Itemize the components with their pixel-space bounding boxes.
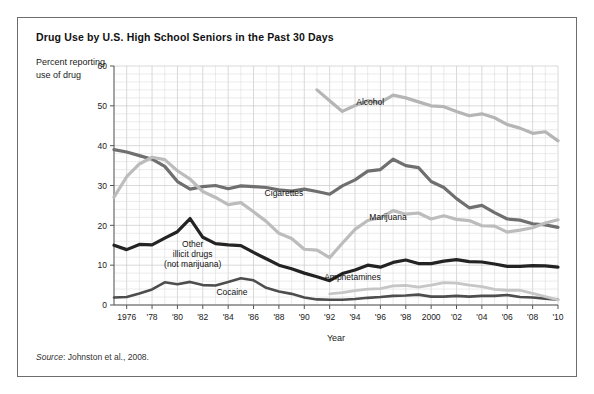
- svg-text:Year: Year: [327, 333, 345, 343]
- svg-text:'10: '10: [552, 312, 563, 322]
- svg-text:'88: '88: [273, 312, 284, 322]
- svg-text:'02: '02: [451, 312, 462, 322]
- svg-text:'90: '90: [299, 312, 310, 322]
- x-axis-ticks: 1976'78'80'82'84'86'88'90'92'94'96'98200…: [117, 305, 564, 322]
- chart-plot-area: 0102030405060 1976'78'80'82'84'86'88'90'…: [18, 18, 576, 358]
- svg-text:50: 50: [98, 101, 108, 111]
- svg-text:'80: '80: [172, 312, 183, 322]
- svg-text:60: 60: [98, 61, 108, 71]
- svg-text:'06: '06: [502, 312, 513, 322]
- svg-text:'98: '98: [400, 312, 411, 322]
- figure-frame: Drug Use by U.S. High School Seniors in …: [17, 17, 577, 377]
- svg-text:'94: '94: [349, 312, 360, 322]
- svg-text:Marijuana: Marijuana: [369, 212, 407, 222]
- y-axis-ticks: 0102030405060: [98, 61, 114, 310]
- svg-text:Amphetamines: Amphetamines: [324, 272, 381, 282]
- gridlines-major: [114, 66, 558, 305]
- x-axis-title: Year: [327, 333, 345, 343]
- svg-text:illicit drugs: illicit drugs: [173, 249, 213, 259]
- svg-text:'78: '78: [147, 312, 158, 322]
- svg-text:40: 40: [98, 141, 108, 151]
- svg-text:'96: '96: [375, 312, 386, 322]
- svg-text:Cigarettes: Cigarettes: [265, 188, 304, 198]
- svg-text:Other: Other: [182, 239, 203, 249]
- svg-text:2000: 2000: [422, 312, 441, 322]
- svg-text:'86: '86: [248, 312, 259, 322]
- svg-text:'04: '04: [476, 312, 487, 322]
- svg-text:20: 20: [98, 221, 108, 231]
- svg-text:(not marijuana): (not marijuana): [164, 259, 221, 269]
- svg-text:30: 30: [98, 181, 108, 191]
- line-chart: 0102030405060 1976'78'80'82'84'86'88'90'…: [18, 18, 576, 358]
- svg-text:10: 10: [98, 260, 108, 270]
- svg-text:'08: '08: [527, 312, 538, 322]
- svg-text:'84: '84: [223, 312, 234, 322]
- svg-text:1976: 1976: [117, 312, 136, 322]
- svg-text:Cocaine: Cocaine: [216, 287, 247, 297]
- svg-text:'92: '92: [324, 312, 335, 322]
- svg-text:Alcohol: Alcohol: [356, 97, 384, 107]
- svg-text:'82: '82: [197, 312, 208, 322]
- svg-text:0: 0: [102, 300, 107, 310]
